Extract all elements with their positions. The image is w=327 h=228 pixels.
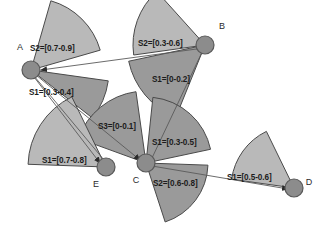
sector-wedge-c-s2 xyxy=(146,163,208,222)
sector-wedge-c-s1 xyxy=(146,97,211,163)
sector-label-d-s1: S1=[0.5-0.6] xyxy=(227,173,272,182)
sectors-layer xyxy=(28,0,294,222)
node-d xyxy=(285,179,303,197)
sector-label-b-s2: S2=[0.3-0.6] xyxy=(138,39,183,48)
diagram-canvas: ABCDES2=[0.7-0.9]S1=[0.3-0.4]S2=[0.3-0.6… xyxy=(0,0,327,228)
node-c xyxy=(137,154,155,172)
node-label-d: D xyxy=(306,177,313,187)
sector-diagram: ABCDES2=[0.7-0.9]S1=[0.3-0.4]S2=[0.3-0.6… xyxy=(0,0,327,228)
sector-label-e-s1: S1=[0.7-0.8] xyxy=(42,156,87,165)
sector-label-c-s1: S1=[0.3-0.5] xyxy=(152,138,197,147)
sector-label-c-s2: S2=[0.6-0.8] xyxy=(153,179,198,188)
node-a xyxy=(22,61,40,79)
sector-label-a-s2: S2=[0.7-0.9] xyxy=(30,44,75,53)
node-label-c: C xyxy=(133,175,140,185)
node-label-b: B xyxy=(219,21,225,31)
node-label-a: A xyxy=(17,42,23,52)
sector-wedge-a-s2 xyxy=(31,1,100,70)
node-b xyxy=(196,36,214,54)
node-e xyxy=(97,158,115,176)
node-label-e: E xyxy=(93,179,99,189)
sector-label-a-s1: S1=[0.3-0.4] xyxy=(29,88,74,97)
sector-label-b-s1: S1=[0-0.2] xyxy=(152,75,190,84)
sector-label-c-s3: S3=[0-0.1] xyxy=(98,122,136,131)
